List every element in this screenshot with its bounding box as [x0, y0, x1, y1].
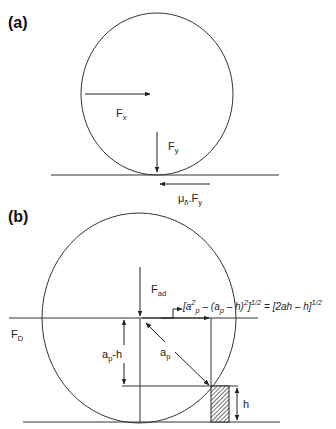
lever-arm-formula: [a2p – (ap – h)2]1/2 = [2ah – h]1/2 [182, 298, 323, 315]
panel-b-label: (b) [8, 208, 28, 225]
friction-label: μδ.Fy [178, 192, 202, 207]
force-x-label: Fx [116, 107, 127, 122]
panel-a-label: (a) [8, 14, 28, 31]
radius-label: ap [160, 346, 170, 361]
drag-force-label: FD [11, 328, 24, 343]
surface-asperity [211, 386, 229, 422]
force-y-label: Fy [168, 140, 179, 155]
adhesion-force-label: Fad [151, 283, 166, 298]
panel-a: (a) Fx Fy μδ.Fy [8, 13, 279, 207]
height-label: h [243, 398, 249, 410]
diagram-canvas: (a) Fx Fy μδ.Fy (b) Fad FD ap-h ap [0, 0, 336, 429]
formula-pointer [161, 309, 173, 318]
radius-arrow-upper [146, 323, 165, 342]
panel-b: (b) Fad FD ap-h ap [a2p – (ap – h)2]1/2 … [8, 208, 323, 423]
radius-arrow-lower [175, 352, 209, 385]
